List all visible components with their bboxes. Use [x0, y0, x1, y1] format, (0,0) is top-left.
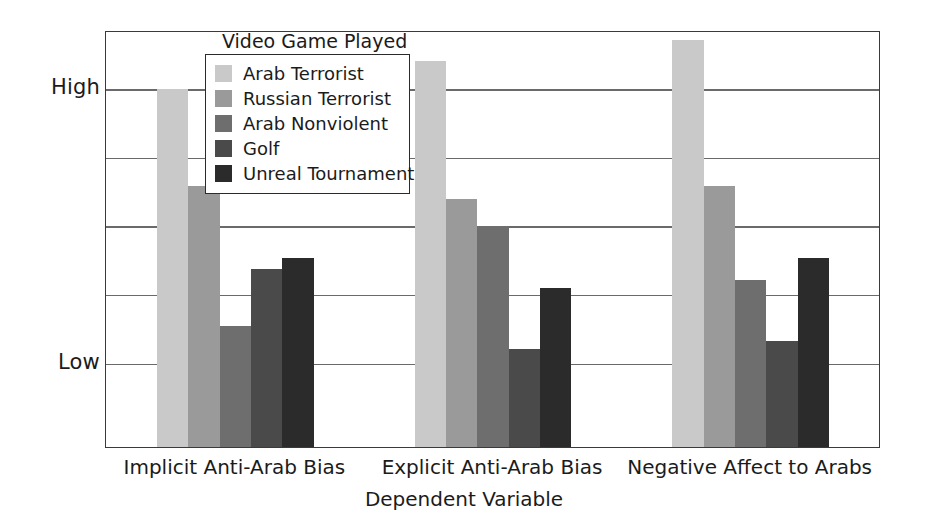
y-tick-label-low: Low [8, 352, 100, 373]
bar [251, 269, 282, 447]
legend-swatch-icon [215, 115, 232, 132]
legend-item[interactable]: Russian Terrorist [215, 86, 400, 111]
bar [798, 258, 829, 447]
x-axis-title: Dependent Variable [0, 487, 928, 511]
bar [446, 199, 477, 447]
legend-item-label: Arab Terrorist [243, 64, 364, 84]
legend-item[interactable]: Unreal Tournament [215, 161, 400, 186]
y-axis: High Low [0, 0, 100, 528]
bar [672, 40, 703, 447]
bar [540, 288, 571, 447]
x-tick-label: Explicit Anti-Arab Bias [382, 455, 603, 479]
legend-item-label: Golf [243, 139, 279, 159]
bar [704, 186, 735, 447]
legend-item-label: Russian Terrorist [243, 89, 391, 109]
bar [188, 186, 219, 447]
legend-swatch-icon [215, 140, 232, 157]
legend-item-label: Arab Nonviolent [243, 114, 388, 134]
bar [415, 61, 446, 447]
bar [735, 280, 766, 447]
x-axis: Implicit Anti-Arab BiasExplicit Anti-Ara… [105, 455, 880, 485]
legend-item[interactable]: Golf [215, 136, 400, 161]
x-tick-label: Negative Affect to Arabs [627, 455, 872, 479]
legend: Arab TerroristRussian TerroristArab Nonv… [205, 54, 410, 194]
bar [220, 326, 251, 447]
legend-swatch-icon [215, 65, 232, 82]
x-tick-label: Implicit Anti-Arab Bias [124, 455, 346, 479]
legend-swatch-icon [215, 165, 232, 182]
bar [477, 226, 508, 447]
bar [766, 341, 797, 447]
legend-title: Video Game Played [222, 30, 407, 52]
legend-swatch-icon [215, 90, 232, 107]
bar [509, 349, 540, 447]
y-tick-label-high: High [8, 77, 100, 98]
bar [282, 258, 313, 447]
bar-chart: High Low Video Game Played Arab Terroris… [0, 0, 928, 528]
legend-item-label: Unreal Tournament [243, 164, 414, 184]
bar [157, 89, 188, 447]
legend-item[interactable]: Arab Nonviolent [215, 111, 400, 136]
legend-item[interactable]: Arab Terrorist [215, 61, 400, 86]
